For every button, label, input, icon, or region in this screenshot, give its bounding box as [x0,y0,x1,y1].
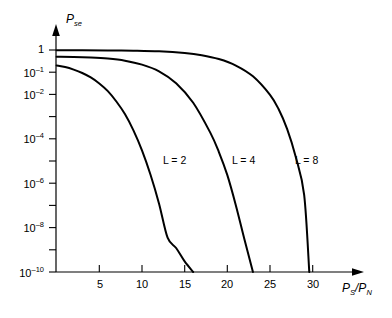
x-tick-label-10: 10 [131,278,153,290]
curve-annotation-l2-text: L = 2 [163,154,186,166]
y-axis [52,24,60,272]
x-tick-label-10-text: 10 [136,278,148,290]
x-axis-title-pn-sub: N [366,288,371,297]
curve-annotation-l8: L = 8 [295,154,318,166]
y-tick-label-1e-8-base: 10 [23,222,35,234]
y-tick-label-1e-8-exp: –8 [36,220,44,229]
y-tick-label-1-text: 1 [38,43,44,55]
y-tick-label-1e-2-exp: –2 [36,87,44,96]
x-tick-label-30-text: 30 [307,278,319,290]
x-axis-ticks [99,265,312,272]
y-tick-label-1e-1-base: 10 [23,67,35,79]
curve-annotation-l2: L = 2 [163,154,186,166]
chart-figure: Pse PS/PN 1 10–1 10–2 10–4 10–6 10–8 10–… [0,0,392,318]
x-tick-label-25-text: 25 [264,278,276,290]
y-axis-ticks [49,50,56,272]
curve-annotation-l4-text: L = 4 [232,154,255,166]
y-tick-label-1e-4: 10–4 [4,131,44,145]
x-tick-label-20: 20 [216,278,238,290]
y-tick-label-1e-1: 10–1 [4,65,44,79]
y-tick-label-1e-10-exp: –10 [31,265,44,274]
x-axis-title: PS/PN [342,281,372,297]
x-tick-label-15: 15 [174,278,196,290]
y-tick-label-1e-2: 10–2 [4,87,44,101]
y-tick-label-1e-8: 10–8 [4,220,44,234]
y-tick-label-1e-4-base: 10 [23,133,35,145]
x-axis-title-ps: P [342,281,350,295]
x-axis-title-slash-pn: /P [355,281,366,295]
x-tick-label-25: 25 [259,278,281,290]
y-axis-title: Pse [66,12,82,28]
curve-l2 [57,66,194,272]
x-tick-label-5: 5 [89,278,111,290]
y-tick-label-1e-6-base: 10 [23,178,35,190]
y-tick-label-1e-1-exp: –1 [36,65,44,74]
plot-canvas [0,0,392,318]
x-tick-label-5-text: 5 [97,278,103,290]
y-axis-title-subscript: se [74,19,82,28]
curve-annotation-l8-text: L = 8 [295,154,318,166]
y-tick-label-1: 1 [14,43,44,55]
y-axis-title-symbol: P [66,12,74,26]
curve-l4 [57,57,253,272]
y-tick-label-1e-4-exp: –4 [36,131,44,140]
y-tick-label-1e-10-base: 10 [19,267,31,279]
y-tick-label-1e-10: 10–10 [0,265,44,279]
x-tick-label-30: 30 [302,278,324,290]
y-tick-label-1e-6-exp: –6 [36,176,44,185]
y-tick-label-1e-2-base: 10 [23,89,35,101]
curve-annotation-l4: L = 4 [232,154,255,166]
x-tick-label-20-text: 20 [221,278,233,290]
x-axis [56,268,364,276]
x-tick-label-15-text: 15 [179,278,191,290]
y-tick-label-1e-6: 10–6 [4,176,44,190]
